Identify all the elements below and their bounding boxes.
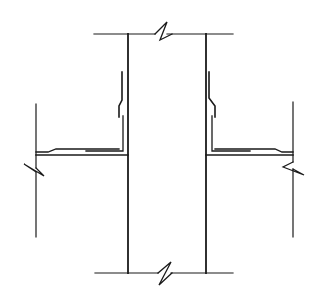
diagram-canvas [0,0,323,304]
flashing-detail-drawing [0,0,323,304]
left-counterflashing [119,72,122,117]
right-edge-break-line [283,102,304,237]
right-counterflashing [209,72,215,117]
bottom-break-line [95,262,233,285]
left-edge-break-line [24,104,44,237]
left-base-flashing [36,116,128,155]
right-base-flashing [206,116,293,155]
top-break-line [94,22,233,40]
